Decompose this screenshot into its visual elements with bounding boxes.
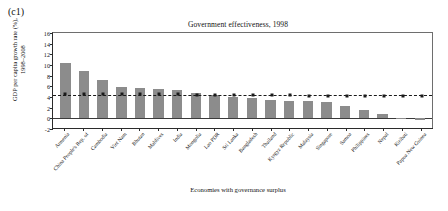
x-tick-label-text: Malaysia	[297, 131, 315, 150]
y-tick-label: 4	[37, 94, 50, 101]
x-tick-mark	[421, 128, 422, 131]
bar	[60, 63, 70, 118]
x-tick-label-text: Kiribati	[393, 131, 409, 147]
bar-slot	[336, 33, 355, 128]
bar-slot	[373, 33, 392, 128]
bar-slot	[75, 33, 94, 128]
x-tick-label: Mongolia	[184, 131, 202, 151]
y-tick-mark	[50, 129, 53, 130]
x-tick-label-text: Viet Nam	[109, 131, 127, 150]
x-tick-mark	[196, 128, 197, 131]
bar	[340, 106, 350, 119]
x-axis-tick-labels: ArmeniaChina People's Rep. ofCambodiaVie…	[52, 131, 433, 183]
x-tick-mark	[252, 128, 253, 131]
bar	[303, 101, 313, 118]
x-tick-label: Bangladesh	[237, 131, 258, 154]
bar	[97, 80, 107, 118]
x-tick-mark	[402, 128, 403, 131]
bar-slot	[410, 33, 429, 128]
bar	[228, 97, 238, 118]
x-tick-label-text: Armenia	[54, 131, 71, 149]
bar-series	[53, 33, 432, 128]
x-tick-label: Thailand	[260, 131, 277, 149]
x-tick-label-text: Cambodia	[89, 131, 108, 151]
x-tick-mark	[214, 128, 215, 131]
x-tick-label: Malaysia	[297, 131, 315, 150]
bar-slot	[224, 33, 243, 128]
x-tick-label: Nepal	[377, 131, 390, 145]
x-tick-label-text: China People's Rep. of	[52, 131, 89, 172]
reference-marker	[383, 94, 386, 97]
reference-marker	[64, 93, 67, 96]
bar	[377, 114, 387, 119]
bar-slot	[131, 33, 150, 128]
x-tick-label-text: Thailand	[260, 131, 277, 149]
bar-slot	[280, 33, 299, 128]
reference-marker	[214, 93, 217, 96]
x-tick-label-text: Lao PDR	[203, 131, 221, 150]
bar-slot	[243, 33, 262, 128]
x-tick-label: Lao PDR	[203, 131, 221, 150]
reference-marker	[233, 94, 236, 97]
x-tick-mark	[346, 128, 347, 131]
x-tick-label-text: Sri Lanka	[221, 131, 240, 151]
x-tick-mark	[233, 128, 234, 131]
x-tick-label: India	[171, 131, 183, 143]
reference-marker	[83, 93, 86, 96]
x-tick-mark	[308, 128, 309, 131]
x-tick-label-text: Bhutan	[131, 131, 146, 147]
bar-slot	[261, 33, 280, 128]
bar-slot	[355, 33, 374, 128]
x-tick-label-text: India	[171, 131, 183, 143]
bar-slot	[205, 33, 224, 128]
reference-marker	[120, 93, 123, 96]
bar	[284, 101, 294, 119]
reference-marker	[345, 94, 348, 97]
reference-marker	[289, 94, 292, 97]
plot-area: -20246810121416	[52, 32, 433, 128]
x-tick-mark	[139, 128, 140, 131]
bar-slot	[168, 33, 187, 128]
y-tick-label: 12	[37, 51, 50, 58]
chart-title-text: Government effectiveness, 1998	[188, 20, 288, 29]
reference-marker	[101, 93, 104, 96]
reference-marker	[308, 94, 311, 97]
x-tick-label: Kiribati	[393, 131, 409, 147]
bar	[321, 102, 331, 119]
x-tick-mark	[64, 128, 65, 131]
x-tick-mark	[289, 128, 290, 131]
x-tick-label: Armenia	[54, 131, 71, 149]
x-tick-label: Singapore	[314, 131, 333, 151]
bar-slot	[392, 33, 411, 128]
chart-title: Government effectiveness, 1998	[0, 20, 448, 29]
bar-slot	[317, 33, 336, 128]
y-tick-label: 10	[37, 62, 50, 69]
x-tick-label: Viet Nam	[109, 131, 127, 150]
bar	[415, 118, 425, 120]
reference-marker	[270, 94, 273, 97]
x-axis-title-text: Economies with governance surplus	[190, 186, 285, 193]
y-tick-label: 6	[37, 83, 50, 90]
x-tick-label: Maldives	[147, 131, 165, 150]
bar	[209, 95, 219, 118]
reference-marker	[401, 94, 404, 97]
x-tick-mark	[158, 128, 159, 131]
x-tick-label: Bhutan	[131, 131, 146, 147]
x-tick-mark	[364, 128, 365, 131]
x-tick-mark	[383, 128, 384, 131]
x-tick-label: Philippines	[350, 131, 371, 153]
bar-slot	[56, 33, 75, 128]
plot-frame: -20246810121416	[52, 32, 433, 128]
x-tick-label-text: Philippines	[350, 131, 371, 153]
bar-slot	[299, 33, 318, 128]
bar	[396, 118, 406, 119]
bar	[359, 110, 369, 118]
reference-marker	[420, 94, 423, 97]
x-tick-label: Sri Lanka	[221, 131, 240, 151]
x-tick-label-text: Maldives	[147, 131, 165, 150]
y-axis-label: GDP per capita growth rate (%), 1998–200…	[11, 10, 26, 110]
y-tick-label: 2	[37, 104, 50, 111]
bar-slot	[149, 33, 168, 128]
bar	[247, 98, 257, 118]
y-tick-label: 16	[37, 30, 50, 37]
